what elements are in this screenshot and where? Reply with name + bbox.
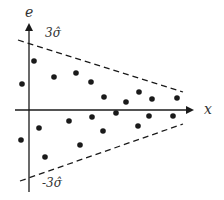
data-point [42,154,48,160]
upper-bound-label: 3σ̂ [45,26,62,40]
data-point [31,58,37,64]
upper-bound-line [18,40,183,92]
lower-bound-label: -3σ̂ [42,176,63,190]
data-point [18,137,24,143]
x-axis-label: x [204,101,212,117]
data-point [170,113,176,119]
data-point [36,125,42,131]
data-point [19,81,25,87]
data-point [88,79,94,85]
data-point [123,99,129,105]
data-point [89,114,95,120]
data-point [66,118,72,124]
data-point [101,94,107,100]
data-point [100,128,106,134]
data-point [77,142,83,148]
data-point [135,123,141,129]
data-points [18,58,180,160]
data-point [136,89,142,95]
y-axis-label: e [25,4,33,20]
data-point [73,70,79,76]
residual-plot: e x 3σ̂ -3σ̂ [0,0,224,200]
data-point [146,113,152,119]
data-point [174,95,180,101]
data-point [149,96,155,102]
data-point [113,110,119,116]
data-point [51,74,57,80]
